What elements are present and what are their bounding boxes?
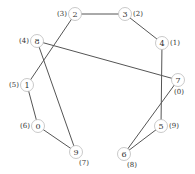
edges-layer bbox=[27, 14, 178, 154]
node-order-label: (1) bbox=[170, 39, 180, 47]
node-order-label: (6) bbox=[20, 122, 30, 130]
node-order-label: (9) bbox=[169, 122, 179, 130]
node-9: 9(7) bbox=[70, 146, 90, 167]
node-id-label: 7 bbox=[175, 76, 180, 85]
node-order-label: (8) bbox=[127, 161, 137, 169]
node-order-label: (7) bbox=[79, 159, 89, 167]
node-id-label: 1 bbox=[24, 81, 29, 90]
node-order-label: (0) bbox=[174, 88, 184, 96]
node-1: 1(5) bbox=[9, 79, 33, 92]
graph-diagram: 0(6)1(5)2(3)3(2)4(1)5(9)6(8)7(0)8(4)9(7) bbox=[0, 0, 195, 174]
node-order-label: (5) bbox=[9, 81, 19, 89]
edge-7-6 bbox=[124, 80, 178, 154]
node-id-label: 0 bbox=[35, 122, 40, 131]
node-id-label: 4 bbox=[159, 39, 164, 48]
node-0: 0(6) bbox=[20, 120, 44, 133]
node-4: 4(1) bbox=[156, 37, 181, 50]
node-order-label: (3) bbox=[57, 10, 67, 18]
node-id-label: 8 bbox=[34, 37, 39, 46]
edge-0-9 bbox=[38, 126, 76, 152]
node-id-label: 6 bbox=[121, 150, 126, 159]
graph-canvas: 0(6)1(5)2(3)3(2)4(1)5(9)6(8)7(0)8(4)9(7) bbox=[0, 0, 195, 174]
node-id-label: 2 bbox=[72, 10, 77, 19]
node-2: 2(3) bbox=[57, 8, 81, 21]
node-7: 7(0) bbox=[172, 74, 185, 96]
edge-4-5 bbox=[161, 43, 162, 126]
edge-8-9 bbox=[37, 41, 76, 152]
node-8: 8(4) bbox=[19, 35, 43, 48]
edge-5-6 bbox=[124, 126, 161, 154]
node-order-label: (4) bbox=[19, 37, 29, 45]
node-id-label: 5 bbox=[158, 122, 163, 131]
node-5: 5(9) bbox=[155, 120, 180, 133]
node-6: 6(8) bbox=[118, 148, 138, 169]
nodes-layer: 0(6)1(5)2(3)3(2)4(1)5(9)6(8)7(0)8(4)9(7) bbox=[9, 8, 184, 169]
edge-3-4 bbox=[125, 14, 162, 43]
node-id-label: 3 bbox=[122, 10, 127, 19]
node-order-label: (2) bbox=[133, 10, 143, 18]
node-id-label: 9 bbox=[73, 148, 78, 157]
